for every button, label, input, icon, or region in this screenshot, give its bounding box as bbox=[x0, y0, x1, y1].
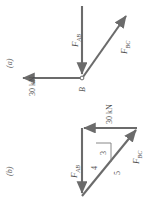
panel-b-label-load: 30 kN bbox=[106, 104, 114, 124]
panel-b-label-fab-base: F bbox=[69, 173, 79, 179]
panel-a-label-fab-sub: AB bbox=[76, 34, 82, 41]
panel-b-tag: (b) bbox=[6, 167, 14, 176]
panel-a-joint-b-label: B bbox=[79, 87, 87, 92]
panel-a-label-fbc: FBC bbox=[120, 41, 131, 54]
panel-b-vector-fbc bbox=[82, 130, 136, 196]
panel-b-label-fbc-base: F bbox=[131, 159, 141, 165]
panel-b-label-fab-sub: AB bbox=[75, 165, 81, 172]
panel-b-label-fab: FAB bbox=[70, 165, 81, 178]
panel-a-tag: (a) bbox=[6, 59, 14, 68]
panel-a-label-load: 30 kN bbox=[29, 76, 37, 96]
panel-a-label-fbc-base: F bbox=[119, 49, 129, 55]
panel-b-slope-label-horizontal: 4 bbox=[91, 166, 99, 170]
panel-b-slope-label-vertical: 3 bbox=[100, 151, 108, 155]
panel-a-joint-b-node bbox=[80, 76, 84, 80]
panel-b-label-fbc: FBC bbox=[132, 151, 143, 164]
panel-a-label-fab: FAB bbox=[71, 34, 82, 47]
panel-b-label-fbc-sub: BC bbox=[137, 151, 143, 159]
force-diagram-figure: (a) FAB FBC 30 kN B (b) 30 kN FAB FBC 3 … bbox=[0, 0, 159, 206]
panel-b-slope-label-hypotenuse: 5 bbox=[114, 171, 122, 175]
panel-a-label-fbc-sub: BC bbox=[125, 41, 131, 49]
panel-a-label-fab-base: F bbox=[70, 42, 80, 48]
